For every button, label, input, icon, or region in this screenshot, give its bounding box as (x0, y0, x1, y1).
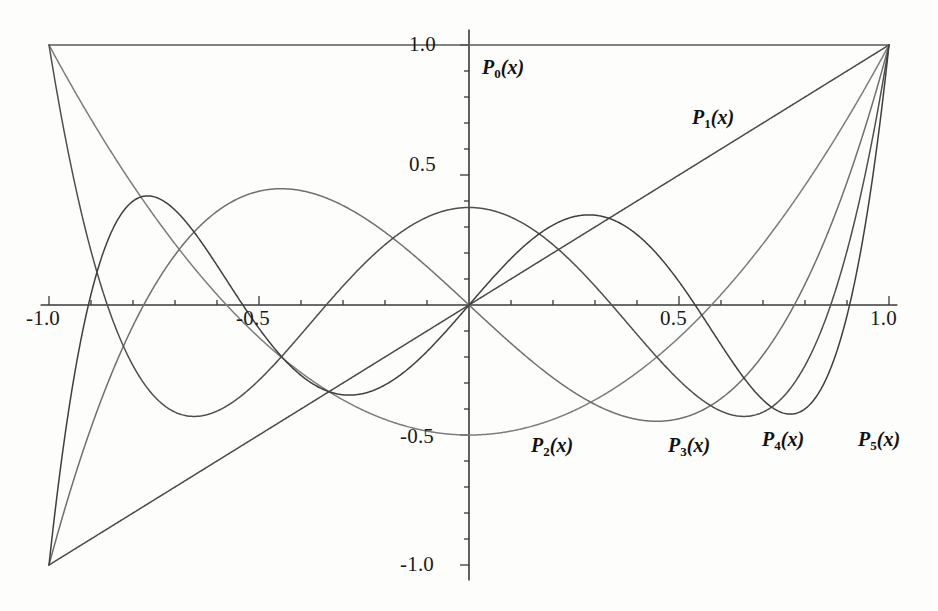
plot-canvas (0, 0, 938, 611)
curve-label-p1-arg: (x) (711, 106, 734, 128)
x-tick-label-0.5: 0.5 (660, 306, 687, 331)
curve-label-p3-arg: (x) (687, 434, 710, 456)
curve-label-p0-arg: (x) (501, 56, 524, 78)
y-tick-label-0.5: 0.5 (409, 152, 436, 177)
curve-label-p1: P1(x) (692, 106, 734, 132)
curve-label-p1-base: P (692, 106, 704, 128)
y-tick-label--1.0: -1.0 (400, 552, 434, 577)
curve-label-p0: P0(x) (482, 56, 524, 82)
curve-label-p4-arg: (x) (781, 428, 804, 450)
curve-label-p4-base: P (762, 428, 774, 450)
x-tick-label--0.5: -0.5 (236, 306, 270, 331)
curve-label-p5-arg: (x) (877, 428, 900, 450)
curve-label-p2-arg: (x) (550, 434, 573, 456)
curve-label-p3-base: P (668, 434, 680, 456)
curve-label-p0-base: P (482, 56, 494, 78)
curve-label-p5: P5(x) (858, 428, 900, 454)
x-tick-label-1.0: 1.0 (870, 306, 897, 331)
x-tick-label--1.0: -1.0 (26, 306, 60, 331)
curve-label-p3: P3(x) (668, 434, 710, 460)
curve-label-p2: P2(x) (531, 434, 573, 460)
legendre-polynomials-figure: -1.0 -0.5 0.5 1.0 1.0 0.5 -0.5 -1.0 P0(x… (0, 0, 938, 611)
curve-label-p5-base: P (858, 428, 870, 450)
y-tick-label--0.5: -0.5 (400, 424, 434, 449)
curve-label-p4: P4(x) (762, 428, 804, 454)
y-tick-label-1.0: 1.0 (409, 32, 436, 57)
curve-label-p2-base: P (531, 434, 543, 456)
